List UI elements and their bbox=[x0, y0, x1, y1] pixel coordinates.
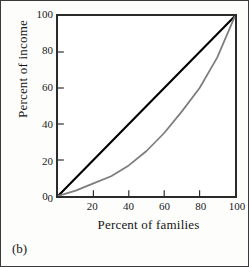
x-axis-tick-labels: 020406080100 bbox=[1, 201, 249, 217]
y-axis-ticks bbox=[58, 52, 64, 160]
y-axis-title: Percent of income bbox=[15, 0, 31, 139]
x-tick-label: 40 bbox=[113, 201, 143, 212]
plot-area bbox=[56, 14, 237, 198]
x-tick-label: 80 bbox=[186, 201, 216, 212]
x-tick-label: 100 bbox=[222, 201, 249, 212]
x-tick-label: 20 bbox=[77, 201, 107, 212]
x-tick-label: 60 bbox=[150, 201, 180, 212]
panel-label: (b) bbox=[12, 241, 27, 257]
figure-panel: 020406080100 020406080100 Percent of fam… bbox=[0, 0, 249, 267]
y-tick-label: 20 bbox=[25, 156, 53, 167]
chart-canvas bbox=[58, 16, 235, 196]
series-group bbox=[58, 16, 235, 196]
x-tick-label: 0 bbox=[30, 191, 60, 202]
series-line bbox=[58, 16, 235, 196]
x-axis-title: Percent of families bbox=[56, 217, 241, 233]
x-axis-ticks bbox=[93, 190, 199, 196]
